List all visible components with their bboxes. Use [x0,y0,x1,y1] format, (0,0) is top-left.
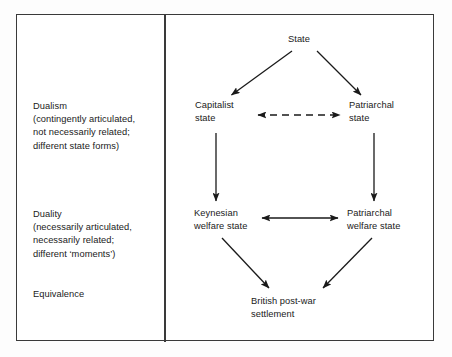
node-patriarchal-state: Patriarchal state [349,99,394,125]
panel-divider [164,14,166,342]
node-keynesian-welfare-state: Keynesian welfare state [194,207,247,233]
node-british-post-war-settlement: British post-war settlement [251,295,316,321]
legend-item-dualism: Dualism (contingently articulated, not n… [33,100,135,153]
node-patriarchal-welfare-state: Patriarchal welfare state [347,207,400,233]
figure-canvas: Dualism (contingently articulated, not n… [0,0,452,357]
node-state: State [288,33,310,46]
node-capitalist-state: Capitalist state [195,99,234,125]
legend-item-duality: Duality (necessarily articulated, necess… [33,208,132,261]
legend-item-equivalence: Equivalence [33,288,84,301]
